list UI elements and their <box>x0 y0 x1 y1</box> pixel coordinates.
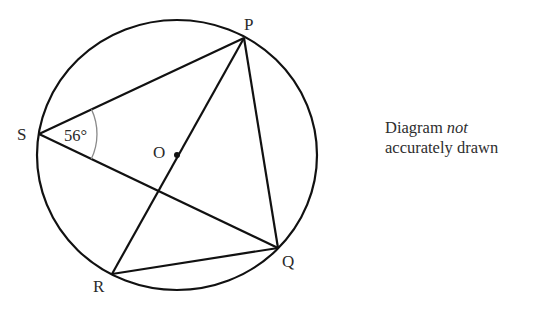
note-regular: Diagram <box>385 118 447 137</box>
angle-label: 56° <box>64 126 87 145</box>
circle-diagram: P S O Q R 56° <box>0 0 550 320</box>
diagram-note: Diagram not accurately drawn <box>385 118 498 158</box>
label-s: S <box>17 125 26 144</box>
note-italic: not <box>447 118 468 137</box>
segment-pq <box>244 38 278 248</box>
label-q: Q <box>282 252 294 271</box>
segment-sp <box>39 38 244 134</box>
label-r: R <box>93 277 105 296</box>
label-o: O <box>153 143 165 162</box>
note-line-1: Diagram not <box>385 118 498 138</box>
angle-arc-s <box>91 109 97 159</box>
note-line-2: accurately drawn <box>385 138 498 158</box>
label-p: P <box>244 15 253 34</box>
center-point-o <box>174 152 180 158</box>
segment-rq <box>112 248 278 274</box>
